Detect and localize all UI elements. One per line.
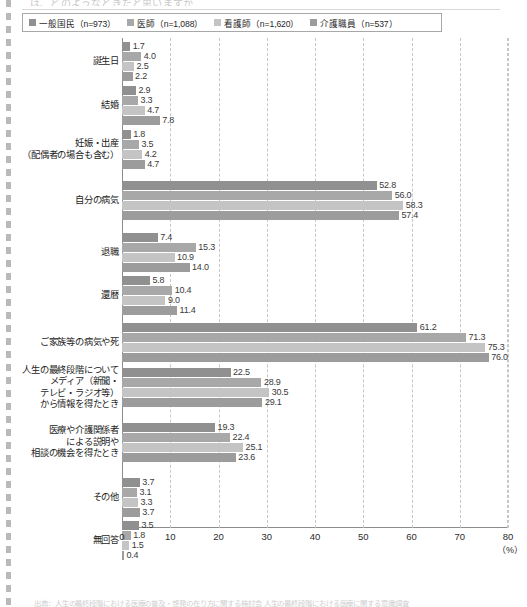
- bar-value-label: 3.7: [142, 477, 154, 487]
- bar-value-label: 19.3: [218, 422, 235, 432]
- plot-area: 1.74.02.52.22.93.34.77.81.83.54.24.752.8…: [122, 38, 508, 528]
- page-binding-marks: [6, 0, 11, 607]
- bar-row: 1.5: [122, 541, 508, 550]
- bar-7-2: [122, 333, 466, 342]
- bar-11-4: [122, 551, 124, 560]
- bar-row: 22.5: [122, 368, 508, 377]
- bar-3-3: [122, 150, 142, 159]
- bar-row: 57.4: [122, 211, 508, 220]
- gridline-80: [508, 38, 509, 528]
- bar-9-1: [122, 423, 215, 432]
- category-label-4: 自分の病気: [7, 195, 119, 206]
- bar-row: 3.7: [122, 508, 508, 517]
- bar-value-label: 10.9: [177, 252, 194, 262]
- bar-5-1: [122, 233, 158, 242]
- bar-6-1: [122, 276, 150, 285]
- bar-group-1: 1.74.02.52.2: [122, 42, 508, 82]
- bar-row: 56.0: [122, 191, 508, 200]
- bar-row: 3.7: [122, 478, 508, 487]
- bar-value-label: 4.2: [145, 149, 157, 159]
- bar-9-2: [122, 433, 230, 442]
- legend-swatch-icon-2: [127, 19, 134, 26]
- bar-1-1: [122, 42, 130, 51]
- bar-group-10: 3.73.13.33.7: [122, 478, 508, 518]
- bar-value-label: 3.1: [139, 487, 151, 497]
- bar-row: 11.4: [122, 306, 508, 315]
- bar-row: 28.9: [122, 378, 508, 387]
- bar-9-3: [122, 443, 243, 452]
- bar-row: 0.4: [122, 551, 508, 560]
- bar-8-1: [122, 368, 231, 377]
- bar-2-4: [122, 116, 160, 125]
- legend-label-1: 一般国民（n=973）: [39, 17, 116, 29]
- bar-value-label: 9.0: [168, 295, 180, 305]
- bar-value-label: 2.5: [137, 61, 149, 71]
- bar-value-label: 1.8: [133, 129, 145, 139]
- bar-row: 10.4: [122, 286, 508, 295]
- legend-label-3: 看護師（n=1,620）: [224, 17, 299, 29]
- bar-7-3: [122, 343, 485, 352]
- bar-value-label: 2.9: [138, 85, 150, 95]
- bar-8-3: [122, 388, 269, 397]
- bar-row: 4.0: [122, 52, 508, 61]
- bar-6-4: [122, 306, 177, 315]
- category-label-7: ご家族等の病気や死: [7, 337, 119, 348]
- x-tick-30: 30: [261, 531, 272, 542]
- bar-2-2: [122, 96, 138, 105]
- bar-10-2: [122, 488, 137, 497]
- bar-4-4: [122, 211, 399, 220]
- bar-value-label: 22.4: [233, 432, 250, 442]
- x-tick-0: 0: [119, 531, 124, 542]
- bar-value-label: 4.0: [144, 51, 156, 61]
- bar-value-label: 3.5: [141, 520, 153, 530]
- source-footnote: 出典：人生の最終段階における医療の普及・啓発の在り方に関する検討会 人生の最終段…: [34, 597, 514, 607]
- bar-value-label: 1.5: [132, 540, 144, 550]
- axis-unit-label: （%）: [497, 543, 523, 556]
- bar-4-1: [122, 181, 377, 190]
- x-tick-80: 80: [503, 531, 514, 542]
- bar-row: 10.9: [122, 253, 508, 262]
- bar-value-label: 3.3: [140, 95, 152, 105]
- bar-group-9: 19.322.425.123.6: [122, 423, 508, 463]
- x-tick-50: 50: [358, 531, 369, 542]
- bar-row: 3.3: [122, 498, 508, 507]
- bar-10-4: [122, 508, 140, 517]
- bar-group-6: 5.810.49.011.4: [122, 276, 508, 316]
- category-label-10: その他: [7, 492, 119, 503]
- bar-value-label: 11.4: [180, 305, 196, 315]
- category-label-5: 退職: [7, 247, 119, 258]
- bar-group-3: 1.83.54.24.7: [122, 130, 508, 170]
- legend-label-4: 介護職員（n=537）: [320, 17, 397, 29]
- bar-row: 22.4: [122, 433, 508, 442]
- bar-row: 2.5: [122, 62, 508, 71]
- bar-value-label: 2.2: [135, 71, 147, 81]
- bar-row: 3.5: [122, 521, 508, 530]
- bar-value-label: 25.1: [246, 442, 263, 452]
- category-label-11: 無回答: [7, 535, 119, 546]
- bar-10-3: [122, 498, 138, 507]
- bar-row: 4.7: [122, 160, 508, 169]
- bar-row: 4.7: [122, 106, 508, 115]
- legend-swatch-icon-3: [214, 19, 221, 26]
- legend-item-4: 介護職員（n=537）: [310, 17, 397, 29]
- bar-value-label: 5.8: [152, 275, 164, 285]
- x-tick-60: 60: [406, 531, 417, 542]
- bar-value-label: 14.0: [192, 262, 209, 272]
- bar-3-2: [122, 140, 139, 149]
- bar-1-4: [122, 72, 133, 81]
- bar-row: 23.6: [122, 453, 508, 462]
- bar-row: 1.8: [122, 130, 508, 139]
- bar-8-4: [122, 398, 262, 407]
- bar-group-5: 7.415.310.914.0: [122, 233, 508, 273]
- bar-value-label: 30.5: [272, 387, 289, 397]
- bar-value-label: 0.4: [126, 550, 138, 560]
- bar-6-3: [122, 296, 165, 305]
- bar-row: 30.5: [122, 388, 508, 397]
- bar-group-2: 2.93.34.77.8: [122, 86, 508, 126]
- bar-value-label: 3.5: [141, 139, 153, 149]
- legend-swatch-icon-4: [310, 19, 317, 26]
- bar-row: 76.0: [122, 353, 508, 362]
- chart-page: は、どのようなときだと思いますか 一般国民（n=973）医師（n=1,088）看…: [0, 0, 527, 607]
- bar-6-2: [122, 286, 172, 295]
- bar-row: 71.3: [122, 333, 508, 342]
